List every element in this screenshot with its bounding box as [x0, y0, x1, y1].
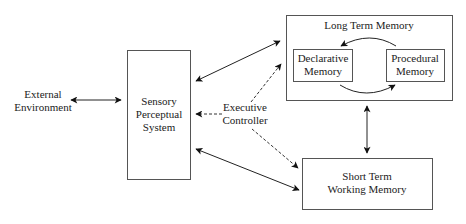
- procedural-label-line1: Procedural: [391, 52, 439, 64]
- sensory-perceptual-system-node: Sensory Perceptual System: [128, 51, 191, 180]
- short-term-label-line1: Short Term: [342, 170, 392, 182]
- declarative-label-line2: Memory: [304, 65, 342, 77]
- short-term-working-memory-node: Short Term Working Memory: [303, 159, 433, 210]
- external-label-line1: External: [24, 88, 61, 100]
- executive-to-longterm-arrow: [251, 64, 281, 102]
- memory-architecture-diagram: External Environment Sensory Perceptual …: [0, 0, 466, 224]
- sensory-longterm-arrow: [196, 41, 280, 81]
- executive-to-shortterm-arrow: [252, 129, 298, 168]
- executive-label-line1: Executive: [223, 101, 267, 113]
- external-environment-node: External Environment: [14, 88, 71, 113]
- short-term-label-line2: Working Memory: [328, 183, 407, 195]
- external-label-line2: Environment: [14, 101, 71, 113]
- sensory-label-line3: System: [143, 121, 176, 133]
- declarative-label-line1: Declarative: [298, 52, 349, 64]
- procedural-label-line2: Memory: [396, 65, 434, 77]
- long-term-memory-node: Long Term Memory Declarative Memory Proc…: [287, 16, 453, 101]
- long-term-memory-title: Long Term Memory: [324, 19, 414, 31]
- sensory-label-line2: Perceptual: [136, 108, 182, 120]
- sensory-label-line1: Sensory: [141, 95, 177, 107]
- executive-controller-node: Executive Controller: [222, 101, 268, 126]
- executive-label-line2: Controller: [222, 114, 268, 126]
